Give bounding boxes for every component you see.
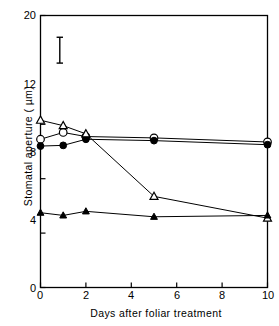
plot-frame: [41, 16, 268, 288]
marker-filled-triangle-x10: [264, 212, 271, 218]
series-open-triangle: [37, 116, 272, 221]
plot-area: [0, 0, 279, 326]
marker-filled-triangle-x2: [82, 208, 89, 214]
series-filled-circle: [37, 136, 271, 150]
marker-filled-circle-x0: [37, 143, 44, 150]
marker-filled-circle-x1: [60, 142, 67, 149]
marker-open-circle-x1: [59, 129, 67, 137]
chart-figure: 20 12 8 4 0 0 2 4 6 8 10 Stomatal apertu…: [0, 0, 279, 326]
annotations-group: [57, 37, 63, 63]
marker-filled-circle-x5: [151, 137, 158, 144]
marker-filled-triangle-x0: [37, 209, 44, 215]
axis-ticks: [41, 16, 268, 288]
series-filled-triangle: [37, 208, 271, 220]
marker-filled-circle-x10: [264, 141, 271, 148]
marker-open-circle-x0: [37, 135, 45, 143]
error-bar: [57, 37, 63, 63]
marker-open-triangle-x0: [37, 116, 45, 123]
data-series-group: [37, 116, 272, 221]
